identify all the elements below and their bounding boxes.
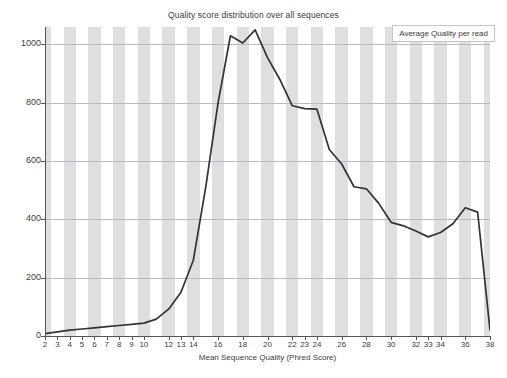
y-axis-line <box>45 27 46 337</box>
y-axis-tick <box>41 103 46 104</box>
x-axis-label: 7 <box>105 340 109 349</box>
x-axis-tick <box>490 336 491 340</box>
x-axis-title: Mean Sequence Quality (Phred Score) <box>45 353 490 362</box>
x-axis-label: 30 <box>387 340 396 349</box>
x-axis-tick <box>45 336 46 340</box>
x-axis-label: 8 <box>117 340 121 349</box>
x-axis-tick <box>132 336 133 340</box>
x-axis-tick <box>119 336 120 340</box>
y-axis-label: 800 <box>3 97 41 107</box>
x-axis-tick <box>107 336 108 340</box>
x-axis-label: 6 <box>92 340 96 349</box>
y-axis-label: 200 <box>3 272 41 282</box>
x-axis-label: 18 <box>238 340 247 349</box>
data-line <box>45 30 490 334</box>
x-axis-tick <box>342 336 343 340</box>
plot-area <box>45 27 490 336</box>
chart-container: Quality score distribution over all sequ… <box>0 0 507 378</box>
x-axis-label: 28 <box>362 340 371 349</box>
x-axis-label: 16 <box>214 340 223 349</box>
y-axis-labels: 02004006008001000 <box>0 0 41 378</box>
x-axis-tick <box>305 336 306 340</box>
x-axis-tick <box>366 336 367 340</box>
x-axis-tick <box>268 336 269 340</box>
y-axis-tick <box>41 44 46 45</box>
x-axis-tick <box>441 336 442 340</box>
y-axis-label: 1000 <box>3 38 41 48</box>
x-axis-tick <box>144 336 145 340</box>
x-axis-tick <box>243 336 244 340</box>
x-axis-tick <box>317 336 318 340</box>
x-axis-tick <box>416 336 417 340</box>
x-axis-tick <box>94 336 95 340</box>
y-axis-tick <box>41 219 46 220</box>
chart-title: Quality score distribution over all sequ… <box>0 10 507 20</box>
x-axis-label: 33 <box>424 340 433 349</box>
x-axis-tick <box>193 336 194 340</box>
legend-average-quality-per-read: Average Quality per read <box>392 25 495 42</box>
x-axis-tick <box>465 336 466 340</box>
x-axis-label: 36 <box>461 340 470 349</box>
x-axis-label: 23 <box>300 340 309 349</box>
x-axis-label: 5 <box>80 340 84 349</box>
y-axis-label: 600 <box>3 155 41 165</box>
x-axis-label: 22 <box>288 340 297 349</box>
x-axis-label: 2 <box>43 340 47 349</box>
x-axis-label: 10 <box>139 340 148 349</box>
x-axis-label: 13 <box>177 340 186 349</box>
x-axis-tick <box>82 336 83 340</box>
x-axis-tick <box>218 336 219 340</box>
x-axis-label: 9 <box>129 340 133 349</box>
x-axis-label: 26 <box>337 340 346 349</box>
x-axis-label: 3 <box>55 340 59 349</box>
x-axis-tick <box>181 336 182 340</box>
x-axis-tick <box>70 336 71 340</box>
x-axis-tick <box>57 336 58 340</box>
x-axis-tick <box>391 336 392 340</box>
x-axis-label: 14 <box>189 340 198 349</box>
x-axis-tick <box>292 336 293 340</box>
series-line-average-quality-per-read <box>45 27 490 336</box>
x-axis-label: 38 <box>486 340 495 349</box>
x-axis-tick <box>428 336 429 340</box>
x-axis-label: 34 <box>436 340 445 349</box>
x-axis-label: 4 <box>67 340 71 349</box>
y-axis-label: 400 <box>3 213 41 223</box>
x-axis-label: 24 <box>312 340 321 349</box>
x-axis-label: 32 <box>411 340 420 349</box>
x-axis-label: 20 <box>263 340 272 349</box>
y-axis-label: 0 <box>3 330 41 340</box>
x-axis-tick <box>169 336 170 340</box>
x-axis-label: 12 <box>164 340 173 349</box>
y-axis-tick <box>41 161 46 162</box>
y-axis-tick <box>41 278 46 279</box>
